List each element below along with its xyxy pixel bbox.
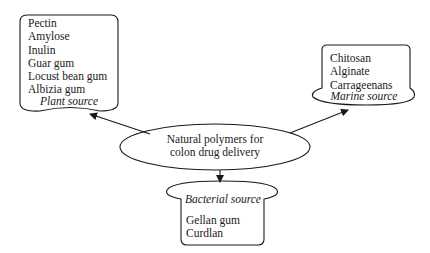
arrow-to-marine — [290, 110, 348, 133]
plant-source-label: Plant source — [20, 95, 118, 108]
plant-item: Amylose — [28, 30, 107, 43]
plant-item: Locust bean gum — [28, 70, 107, 83]
bacterial-item: Gellan gum — [186, 214, 240, 227]
plant-item: Guar gum — [28, 57, 107, 70]
central-title-line1: Natural polymers for — [130, 133, 300, 146]
diagram-canvas: Pectin Amylose Inulin Guar gum Locust be… — [0, 0, 430, 253]
plant-item: Pectin — [28, 17, 107, 30]
central-title-line2: colon drug delivery — [130, 146, 300, 159]
plant-item: Inulin — [28, 44, 107, 57]
marine-items: Chitosan Alginate Carrageenans — [330, 52, 393, 92]
marine-item: Alginate — [330, 65, 393, 78]
marine-source-label: Marine source — [314, 90, 414, 103]
plant-items: Pectin Amylose Inulin Guar gum Locust be… — [28, 17, 107, 97]
bacterial-items: Gellan gum Curdlan — [186, 214, 240, 241]
bacterial-item: Curdlan — [186, 227, 240, 240]
marine-item: Chitosan — [330, 52, 393, 65]
arrow-to-plant — [90, 114, 150, 134]
central-title: Natural polymers for colon drug delivery — [130, 133, 300, 160]
bacterial-source-label: Bacterial source — [167, 193, 279, 206]
